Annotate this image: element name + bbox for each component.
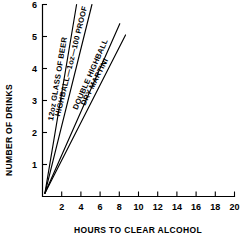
x-tick-label-6: 6 <box>98 202 103 212</box>
x-axis-tick-marks <box>62 192 235 197</box>
x-tick-label-20: 20 <box>229 202 239 212</box>
chart-canvas: 123456 2468101214161820 12oz GLASS OF BE… <box>0 0 250 246</box>
x-tick-label-16: 16 <box>191 202 201 212</box>
x-axis-title: HOURS TO CLEAR ALCOHOL <box>74 225 202 235</box>
y-tick-label-5: 5 <box>32 32 37 42</box>
y-axis-title: NUMBER OF DRINKS <box>4 84 14 176</box>
y-tick-label-2: 2 <box>32 128 37 138</box>
x-tick-label-18: 18 <box>210 202 220 212</box>
data-series-labels: 12oz GLASS OF BEERHIGHBALL—1oz—100 PROOF… <box>46 5 110 121</box>
x-tick-label-8: 8 <box>117 202 122 212</box>
x-tick-label-4: 4 <box>78 202 83 212</box>
alcohol-clearance-chart: 123456 2468101214161820 12oz GLASS OF BE… <box>0 0 250 246</box>
y-axis-tick-labels: 123456 <box>32 0 37 170</box>
x-tick-label-10: 10 <box>133 202 143 212</box>
y-tick-label-1: 1 <box>32 160 37 170</box>
x-tick-label-14: 14 <box>172 202 182 212</box>
y-tick-label-3: 3 <box>32 96 37 106</box>
x-tick-label-12: 12 <box>153 202 163 212</box>
y-tick-label-6: 6 <box>32 0 37 10</box>
y-tick-label-4: 4 <box>32 64 37 74</box>
x-tick-label-2: 2 <box>59 202 64 212</box>
y-axis-tick-marks <box>43 5 48 165</box>
x-axis-tick-labels: 2468101214161820 <box>59 202 239 212</box>
